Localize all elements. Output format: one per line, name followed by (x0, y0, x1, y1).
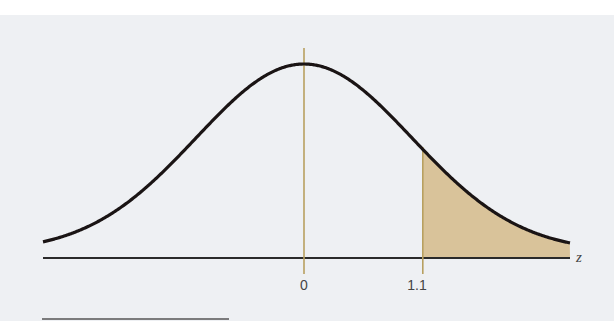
tick-label-1-1: 1.1 (407, 277, 427, 293)
tick-label-0: 0 (300, 277, 308, 293)
axis-label-z: z (575, 249, 582, 265)
normal-curve-chart: 0 1.1 z (0, 0, 614, 321)
shaded-tail-area (423, 149, 570, 258)
